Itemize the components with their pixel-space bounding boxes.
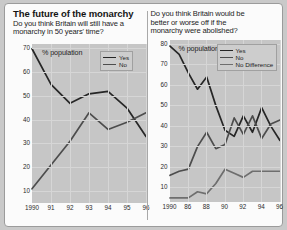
y-axis-tick-label: 10 bbox=[23, 188, 30, 194]
gridline-vertical bbox=[51, 44, 52, 203]
y-axis-tick-label: 40 bbox=[160, 123, 167, 129]
y-axis-tick-label: 60 bbox=[160, 82, 167, 88]
legend-swatch-icon bbox=[220, 57, 233, 58]
legend-label: Yes bbox=[119, 54, 129, 61]
x-axis-tick-label: 88 bbox=[203, 204, 210, 210]
x-axis-tick-label: 95 bbox=[123, 205, 130, 211]
y-axis-tick-label: 50 bbox=[23, 93, 30, 99]
chart-right: Do you think Britain would be better or … bbox=[146, 4, 283, 226]
y-axis-tick-label: 30 bbox=[23, 140, 30, 146]
y-axis-tick-label: 50 bbox=[160, 102, 167, 108]
x-axis-tick-label: 91 bbox=[47, 205, 54, 211]
legend-item[interactable]: Yes bbox=[103, 54, 129, 61]
chart-left-title: The future of the monarchy bbox=[13, 9, 144, 19]
y-axis-tick-label: 80 bbox=[160, 41, 167, 47]
x-axis-tick-label: 92 bbox=[66, 205, 73, 211]
legend-swatch-icon bbox=[220, 64, 233, 65]
chart-left: The future of the monarchy Do you think … bbox=[5, 4, 146, 226]
x-axis-tick-label: 96 bbox=[276, 204, 283, 210]
chart-right-question: Do you think Britain would be better or … bbox=[151, 10, 279, 36]
legend-swatch-icon bbox=[103, 57, 116, 58]
y-axis-tick-label: 60 bbox=[23, 69, 30, 75]
gridline-vertical bbox=[188, 40, 189, 202]
chart-left-legend: YesNo bbox=[100, 51, 133, 71]
chart-right-legend: YesNoNo Difference bbox=[217, 44, 278, 71]
figure-panel: The future of the monarchy Do you think … bbox=[4, 3, 283, 227]
legend-item[interactable]: No bbox=[103, 61, 129, 68]
y-axis-tick-label: 70 bbox=[23, 45, 30, 51]
y-axis-tick-label: 20 bbox=[160, 164, 167, 170]
x-axis-tick-label: 92 bbox=[239, 204, 246, 210]
x-axis-tick-label: 1990 bbox=[25, 205, 39, 211]
x-axis-tick-label: 94 bbox=[258, 204, 265, 210]
legend-item[interactable]: No Difference bbox=[220, 61, 274, 68]
legend-label: Yes bbox=[236, 47, 246, 54]
gridline-vertical bbox=[206, 40, 207, 202]
legend-swatch-icon bbox=[220, 50, 233, 51]
legend-label: No bbox=[119, 61, 127, 68]
y-axis-tick-label: 30 bbox=[160, 143, 167, 149]
gridline-vertical bbox=[89, 44, 90, 203]
gridline-vertical bbox=[70, 44, 71, 203]
chart-left-axis-note: % population bbox=[42, 48, 82, 57]
x-axis-tick-label: 94 bbox=[104, 205, 111, 211]
legend-label: No bbox=[236, 54, 244, 61]
legend-item[interactable]: No bbox=[220, 54, 274, 61]
legend-label: No Difference bbox=[236, 61, 274, 68]
legend-item[interactable]: Yes bbox=[220, 47, 274, 54]
chart-right-axis-note: % population bbox=[179, 44, 219, 53]
y-axis-tick-label: 70 bbox=[160, 61, 167, 67]
x-axis-tick-label: 86 bbox=[184, 204, 191, 210]
chart-left-question: Do you think Britain will still have a m… bbox=[13, 20, 144, 37]
x-axis-tick-label: 93 bbox=[85, 205, 92, 211]
y-axis-tick-label: 10 bbox=[160, 184, 167, 190]
x-axis-tick-label: 1990 bbox=[162, 204, 176, 210]
x-axis-tick-label: 90 bbox=[221, 204, 228, 210]
legend-swatch-icon bbox=[103, 64, 116, 65]
y-axis-tick-label: 40 bbox=[23, 117, 30, 123]
gridline-vertical bbox=[280, 40, 281, 202]
y-axis-tick-label: 20 bbox=[23, 164, 30, 170]
